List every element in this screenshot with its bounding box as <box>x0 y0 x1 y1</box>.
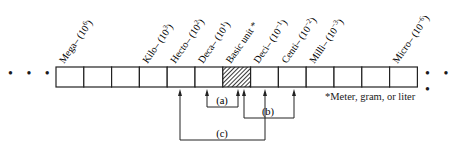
arrow-up-icon <box>263 89 267 96</box>
bracket-label: (c) <box>216 128 228 140</box>
bracket-label: (b) <box>262 106 275 118</box>
prefix-cell <box>278 67 306 87</box>
prefix-cell <box>251 67 279 87</box>
bracket-label: (a) <box>216 95 228 107</box>
arrow-up-icon <box>178 89 182 96</box>
prefix-cell <box>167 67 195 87</box>
arrow-up-icon <box>205 89 209 96</box>
prefix-cell <box>84 67 112 87</box>
prefix-label: Micro– (10−6) <box>389 12 432 65</box>
prefix-strip <box>56 67 417 87</box>
prefix-cell <box>195 67 223 87</box>
prefix-cell <box>306 67 334 87</box>
prefix-cell <box>139 67 167 87</box>
arrow-up-icon <box>292 89 296 96</box>
prefix-label: Mega– (106) <box>56 17 96 66</box>
footnote: *Meter, gram, or liter <box>325 91 415 102</box>
prefix-cell <box>56 67 84 87</box>
prefix-cell <box>112 67 140 87</box>
prefix-cell <box>390 67 418 87</box>
metric-prefix-diagram: Mega– (106)Kilo– (103)Hecto– (102)Deca– … <box>0 0 468 152</box>
arrow-up-icon <box>242 89 246 96</box>
prefix-labels: Mega– (106)Kilo– (103)Hecto– (102)Deca– … <box>56 12 432 65</box>
prefix-cell <box>334 67 362 87</box>
conversion-brackets: (a)(b)(c) <box>178 89 296 140</box>
prefix-cell <box>362 67 390 87</box>
basic-unit-cell <box>223 67 251 87</box>
arrow-up-icon <box>236 89 240 96</box>
